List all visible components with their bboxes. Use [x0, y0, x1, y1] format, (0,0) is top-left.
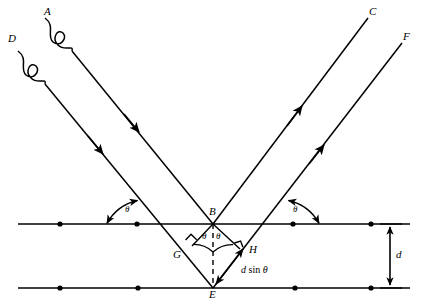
lattice-planes — [18, 224, 410, 288]
lattice-atom — [134, 221, 139, 226]
path-difference-theta: θ — [263, 264, 268, 275]
diagram-canvas — [0, 0, 423, 305]
path-difference-arrow — [216, 249, 243, 284]
ray-d-arrow — [88, 136, 103, 154]
ray-c-arrow — [287, 106, 302, 126]
lattice-atom — [292, 285, 297, 290]
point-label-g: G — [173, 249, 181, 260]
path-difference-label: d sin θ — [241, 265, 268, 275]
point-label-h: H — [249, 244, 257, 255]
ray-label-d: D — [8, 33, 16, 44]
ray-d-incoming — [18, 51, 213, 288]
ray-label-f: F — [403, 31, 410, 42]
ray-c-outgoing — [213, 18, 368, 224]
ray-f-arrow — [309, 145, 324, 164]
ray-a-arrow — [124, 114, 139, 132]
theta-arc-left — [107, 201, 138, 224]
ray-a-line — [72, 51, 213, 224]
ray-label-a: A — [44, 6, 51, 17]
lattice-atom — [290, 221, 295, 226]
theta-arc-inner-left — [193, 244, 213, 252]
lattice-atom — [57, 285, 62, 290]
spacing-label-d: d — [396, 249, 402, 260]
ray-d-wave — [18, 51, 45, 84]
theta-label-left: θ — [125, 205, 129, 214]
ray-d-line — [45, 84, 213, 288]
lattice-atom — [368, 221, 373, 226]
lattice-atom — [57, 221, 62, 226]
ray-a-incoming — [45, 18, 213, 224]
point-label-b: B — [209, 206, 216, 217]
ray-a-wave — [45, 18, 72, 51]
theta-arc-inner-right — [213, 245, 233, 252]
lattice-atom — [135, 285, 140, 290]
theta-label-inner-right: θ — [216, 232, 220, 241]
right-angle-mark-g — [186, 234, 197, 240]
point-label-e: E — [209, 289, 216, 300]
theta-label-inner-left: θ — [202, 232, 206, 241]
bragg-diffraction-diagram: A D C F B E G H θ θ θ θ d sin θ d — [0, 0, 423, 305]
theta-label-right: θ — [293, 205, 297, 214]
path-difference-sin: sin — [249, 264, 261, 275]
lattice-atom — [368, 285, 373, 290]
ray-label-c: C — [369, 6, 376, 17]
